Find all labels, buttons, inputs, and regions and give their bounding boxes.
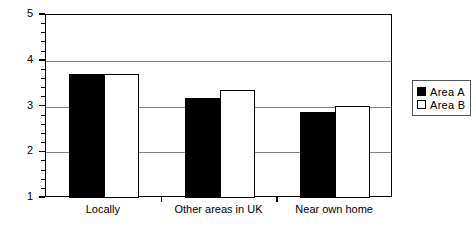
x-tick xyxy=(161,197,163,202)
legend: Area A Area B xyxy=(412,80,471,116)
bar-area-a xyxy=(69,74,104,198)
y-tick-label: 4 xyxy=(13,53,33,65)
bar-area-a xyxy=(300,112,335,198)
hollow-square-icon xyxy=(417,100,426,109)
gridline xyxy=(46,61,391,62)
bar-area-b xyxy=(104,74,139,198)
bar-area-b xyxy=(220,90,255,198)
legend-item-area-a: Area A xyxy=(417,85,465,98)
x-tick-label: Near own home xyxy=(264,203,404,215)
plot-area xyxy=(45,14,392,197)
legend-label-area-a: Area A xyxy=(430,86,465,98)
y-tick-label: 2 xyxy=(13,144,33,156)
chart-figure: Likert scale score 12345 LocallyOther ar… xyxy=(0,0,476,228)
bar-area-b xyxy=(335,106,370,198)
filled-square-icon xyxy=(417,87,426,96)
y-tick-label: 3 xyxy=(13,99,33,111)
y-tick-label: 5 xyxy=(13,7,33,19)
legend-item-area-b: Area B xyxy=(417,98,465,111)
x-tick xyxy=(276,197,278,202)
bar-area-a xyxy=(185,98,220,198)
legend-label-area-b: Area B xyxy=(430,99,465,111)
y-tick-label: 1 xyxy=(13,190,33,202)
